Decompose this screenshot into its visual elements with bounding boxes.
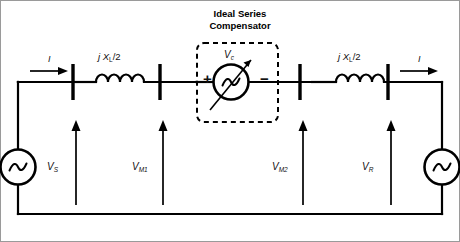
impedance-left-subscript: L: [109, 56, 113, 63]
vc-subscript: c: [231, 54, 234, 61]
voltage-label-vr: VR: [362, 162, 373, 172]
polarity-plus-label: +: [203, 71, 212, 86]
current-label-right: I: [418, 55, 421, 64]
vr-symbol: V: [362, 161, 369, 172]
voltage-label-vm1: VM1: [132, 162, 148, 172]
compensator-title-line1: Ideal Series: [190, 9, 290, 19]
current-label-left: I: [48, 55, 51, 64]
vm1-symbol: V: [132, 161, 139, 172]
impedance-right-prefix: j X: [338, 51, 349, 62]
impedance-right-subscript: L: [349, 56, 353, 63]
vm1-subscript: M1: [139, 166, 148, 173]
vc-symbol: V: [224, 49, 231, 60]
impedance-left-prefix: j X: [98, 51, 109, 62]
impedance-label-right: j XL/2: [338, 52, 361, 62]
sending-end-source: [1, 150, 36, 185]
impedance-label-left: j XL/2: [98, 52, 121, 62]
vs-subscript: S: [54, 166, 58, 173]
vs-symbol: V: [47, 161, 54, 172]
vm2-symbol: V: [272, 161, 279, 172]
voltage-label-vm2: VM2: [272, 162, 288, 172]
vm2-subscript: M2: [279, 166, 288, 173]
circuit-diagram: Ideal Series Compensator I I j XL/2 j XL…: [0, 0, 460, 242]
diagram-canvas: [0, 0, 460, 242]
vr-subscript: R: [369, 166, 374, 173]
polarity-minus-label: −: [260, 71, 269, 86]
compensator-title: Ideal Series Compensator: [190, 9, 290, 30]
impedance-left-suffix: /2: [113, 51, 121, 62]
voltage-label-vc: Vc: [224, 50, 234, 60]
receiving-end-source: [425, 150, 460, 185]
compensator-title-line2: Compensator: [190, 21, 290, 31]
voltage-label-vs: VS: [47, 162, 58, 172]
impedance-right-suffix: /2: [353, 51, 361, 62]
